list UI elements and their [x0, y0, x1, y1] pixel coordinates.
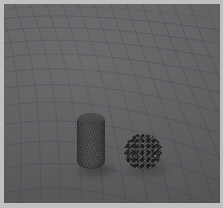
- granular-pile-particles: [124, 134, 162, 170]
- frame-border-right: [220, 0, 223, 208]
- frame-border-bottom: [0, 203, 223, 208]
- cylinder-object: [77, 113, 105, 169]
- frame-border-left: [0, 0, 4, 208]
- cylinder-top-cap: [78, 113, 104, 124]
- frame-border-top: [0, 0, 223, 4]
- render-viewport: [0, 0, 223, 208]
- simulation-scene: [4, 4, 220, 203]
- granular-pile-object: [125, 135, 161, 169]
